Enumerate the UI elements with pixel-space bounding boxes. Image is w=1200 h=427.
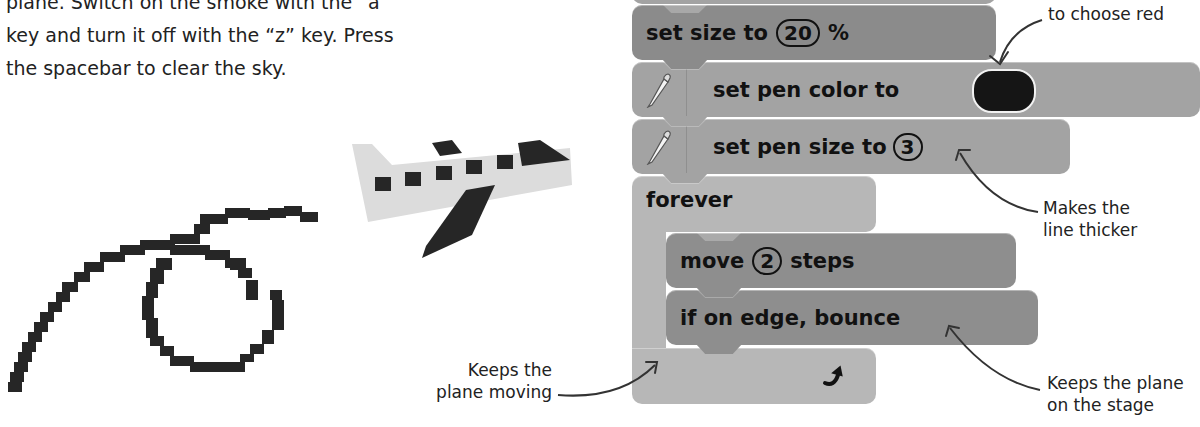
move-steps-block[interactable]: move 2 steps [666,233,1016,288]
annotation-text: line thicker [1043,219,1137,241]
intro-line: key and turn it off with the “z” key. Pr… [6,19,466,52]
intro-line: the spacebar to clear the sky. [6,52,466,85]
bounce-label: if on edge, bounce [680,306,900,330]
plane-icon [352,140,572,258]
set-pen-size-block[interactable]: set pen size to 3 [632,119,1070,174]
annotation-moving: Keeps the plane moving [420,359,552,403]
intro-line: plane. Switch on the smoke with the “a” [6,0,466,19]
set-size-label: set size to [646,21,768,45]
forever-header: forever [632,176,876,232]
annotation-text: on the stage [1047,394,1184,416]
percent-label: % [828,21,849,45]
annotation-text: plane moving [420,381,552,403]
steps-value-input[interactable]: 2 [752,247,782,275]
move-label: move [680,249,744,273]
set-pen-size-label: set pen size to [713,135,887,159]
forever-arm [632,226,666,356]
forever-footer [632,348,876,404]
annotation-text: Makes the [1043,197,1137,219]
pen-size-value-input[interactable]: 3 [893,133,923,161]
pen-icon [632,62,687,117]
pen-icon [632,119,687,174]
arrow-icon [1000,20,1042,62]
annotation-text: Keeps the [420,359,552,381]
annotation-choose-red: to choose red [1048,3,1164,25]
steps-label: steps [790,249,854,273]
pen-color-swatch[interactable] [972,69,1036,113]
intro-text: plane. Switch on the smoke with the “a” … [6,0,466,85]
bounce-block[interactable]: if on edge, bounce [666,290,1038,345]
set-size-block[interactable]: set size to 20 % [632,5,996,60]
set-pen-color-block[interactable]: set pen color to [632,62,1200,117]
size-value-input[interactable]: 20 [776,19,820,47]
partial-block-top[interactable] [632,0,996,4]
set-pen-color-label: set pen color to [713,78,899,102]
loop-arrow-icon [822,363,848,389]
annotation-text: Keeps the plane [1047,372,1184,394]
annotation-text: to choose red [1048,4,1164,24]
annotation-stage: Keeps the plane on the stage [1047,372,1184,416]
smoke-trail-icon [8,206,318,392]
forever-label: forever [646,188,732,212]
annotation-thicker: Makes the line thicker [1043,197,1137,241]
